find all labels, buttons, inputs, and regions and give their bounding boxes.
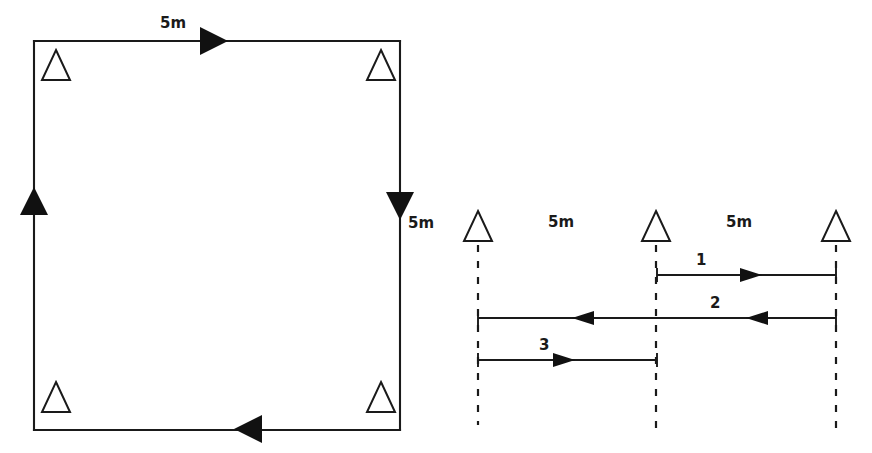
span-label-right: 5m: [726, 213, 752, 231]
right-linear-diagram: 5m 5m 1 2 3: [464, 211, 850, 432]
run-3-label: 3: [539, 336, 549, 354]
left-square-diagram: 5m 5m: [20, 14, 434, 443]
station-triangle-c-icon: [822, 211, 850, 241]
run-2-arrow-left-icon-a: [572, 311, 594, 325]
run-1-label: 1: [696, 251, 706, 269]
run-3-arrow-right-icon: [553, 353, 575, 367]
run-2-arrow-left-icon-b: [746, 311, 768, 325]
run-1-group: 1: [657, 251, 836, 282]
station-triangle-top-left-icon: [42, 50, 70, 80]
square-top-arrow-right-icon: [200, 27, 228, 55]
station-triangle-bottom-left-icon: [42, 382, 70, 412]
run-2-label: 2: [710, 294, 720, 312]
station-triangle-b-icon: [642, 211, 670, 241]
diagram-canvas: 5m 5m 5m 5m 1: [0, 0, 872, 453]
square-top-dimension-label: 5m: [160, 14, 186, 32]
square-right-dimension-label: 5m: [408, 214, 434, 232]
station-triangle-bottom-right-icon: [367, 382, 395, 412]
run-3-group: 3: [478, 336, 657, 367]
run-1-arrow-right-icon: [740, 268, 762, 282]
square-bottom-arrow-left-icon: [234, 415, 262, 443]
square-left-arrow-up-icon: [20, 187, 48, 215]
figure-root: 5m 5m 5m 5m 1: [0, 0, 872, 453]
span-label-left: 5m: [548, 213, 574, 231]
station-triangle-top-right-icon: [367, 50, 395, 80]
station-triangle-a-icon: [464, 211, 492, 241]
